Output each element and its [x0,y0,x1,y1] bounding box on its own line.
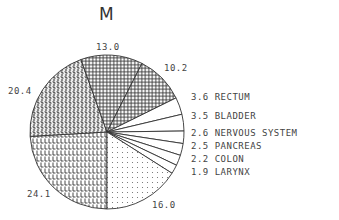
value-label-10-2: 10.2 [164,63,188,73]
legend-colon: 2.2 COLON [191,154,244,164]
value-label-16-0: 16.0 [152,200,176,210]
legend-larynx: 1.9 LARYNX [191,167,250,177]
value-label-24-1: 24.1 [27,189,51,199]
value-label-20-4: 20.4 [8,86,32,96]
legend-rectum: 3.6 RECTUM [191,92,250,102]
value-label-13-0: 13.0 [96,42,120,52]
legend-nervous-system: 2.6 NERVOUS SYSTEM [191,128,298,138]
pie-slices [30,55,184,209]
chart-title: M [99,4,114,24]
legend-bladder: 3.5 BLADDER [191,111,256,121]
pie-chart [0,0,339,220]
legend-pancreas: 2.5 PANCREAS [191,141,262,151]
